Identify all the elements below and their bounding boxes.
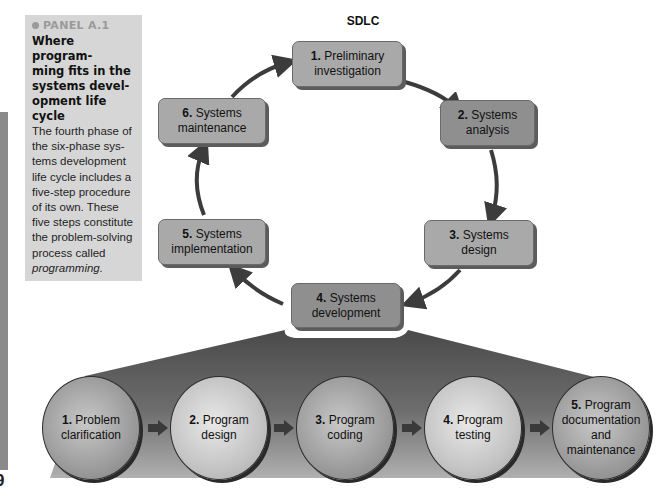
- step-number: 4.: [443, 413, 453, 427]
- step-label: clarification: [43, 428, 139, 443]
- step-number: 3.: [315, 413, 325, 427]
- step-label: documentation: [553, 413, 649, 428]
- phase-label: Preliminary: [324, 49, 384, 63]
- phase-label: design: [425, 243, 533, 258]
- step-label: testing: [425, 428, 521, 443]
- phase-1-preliminary-investigation: 1. Preliminary investigation: [292, 41, 403, 87]
- step-label: and: [553, 428, 649, 443]
- phase-label: Systems: [196, 106, 242, 120]
- step-label: Program: [203, 413, 249, 427]
- phase-number: 6.: [182, 106, 192, 120]
- arrow-4-to-5: [236, 272, 283, 304]
- step-label: Program: [585, 398, 631, 412]
- phase-label: investigation: [293, 64, 402, 79]
- right-arrow-icon: [148, 420, 168, 436]
- phase-number: 5.: [182, 227, 192, 241]
- phase-label: maintenance: [159, 121, 265, 136]
- phase-label: Systems: [463, 228, 509, 242]
- step-number: 1.: [62, 413, 72, 427]
- step-label: coding: [297, 428, 393, 443]
- step-label: Program: [457, 413, 503, 427]
- phase-label: Systems: [330, 291, 376, 305]
- step-label: design: [171, 428, 267, 443]
- phase-label: Systems: [196, 227, 242, 241]
- phase-label: Systems: [471, 108, 517, 122]
- phase-6-systems-maintenance: 6. Systems maintenance: [158, 98, 266, 144]
- step-label: Problem: [75, 413, 120, 427]
- step-3-program-coding: 3. Program coding: [296, 376, 394, 480]
- right-arrow-icon: [530, 420, 550, 436]
- right-arrow-icon: [402, 420, 422, 436]
- step-1-problem-clarification: 1. Problem clarification: [42, 376, 140, 480]
- phase-3-systems-design: 3. Systems design: [424, 220, 534, 266]
- step-number: 2.: [189, 413, 199, 427]
- step-5-program-documentation-and-maintenance: 5. Program documentation and maintenance: [552, 376, 650, 480]
- arrow-5-to-6: [197, 150, 204, 215]
- sdlc-title: SDLC: [333, 14, 393, 28]
- phase-number: 2.: [458, 108, 468, 122]
- phase-label: analysis: [441, 123, 534, 138]
- arrow-2-to-3: [491, 150, 497, 216]
- phase-2-systems-analysis: 2. Systems analysis: [440, 100, 535, 146]
- arrow-3-to-4: [412, 270, 460, 302]
- phase-4-systems-development: 4. Systems development: [291, 283, 401, 328]
- step-2-program-design: 2. Program design: [170, 376, 268, 480]
- phase-5-systems-implementation: 5. Systems implementation: [158, 219, 266, 265]
- phase-number: 4.: [316, 291, 326, 305]
- phase-label: development: [292, 306, 400, 321]
- right-arrow-icon: [274, 420, 294, 436]
- step-number: 5.: [571, 398, 581, 412]
- phase-label: implementation: [159, 242, 265, 257]
- phase-number: 1.: [311, 49, 321, 63]
- step-label: Program: [329, 413, 375, 427]
- step-4-program-testing: 4. Program testing: [424, 376, 522, 480]
- phase-number: 3.: [449, 228, 459, 242]
- arrow-6-to-1: [232, 63, 286, 97]
- step-label: maintenance: [553, 443, 649, 458]
